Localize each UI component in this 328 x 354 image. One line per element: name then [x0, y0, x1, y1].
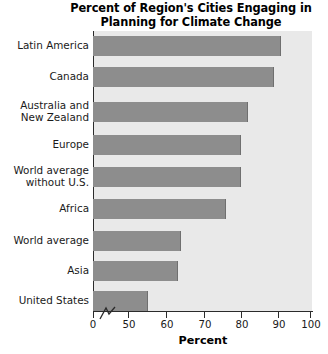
x-tick-label-0: 0	[78, 319, 108, 330]
x-tick-mark-80	[241, 312, 242, 318]
category-label-line: World average	[13, 234, 89, 246]
bar-world-average	[93, 231, 181, 251]
chart-title-line-2: Planning for Climate Change	[62, 16, 320, 30]
x-tick-mark-0	[93, 312, 94, 318]
category-label-united-states: United States	[0, 294, 89, 306]
bar-row	[93, 67, 312, 87]
bar-row	[93, 199, 312, 219]
bar-row	[93, 261, 312, 281]
x-tick-label-90: 90	[264, 319, 294, 330]
bar-asia	[93, 261, 178, 281]
category-label-line: New Zealand	[0, 111, 89, 123]
axis-break-icon	[98, 306, 118, 320]
category-label-asia: Asia	[0, 264, 89, 276]
x-axis-line	[93, 311, 313, 312]
category-label-line: Latin America	[17, 39, 89, 51]
bar-chart: Percent of Region's Cities Engaging in P…	[0, 0, 328, 354]
bar-canada	[93, 67, 274, 87]
x-tick-mark-100	[310, 312, 311, 318]
category-label-latin-america: Latin America	[0, 39, 89, 51]
x-tick-mark-50	[128, 312, 129, 318]
category-label-world-average: World average	[0, 234, 89, 246]
category-label-world-average-without-us: World average without U.S.	[0, 164, 89, 188]
category-label-line: Australia and	[0, 99, 89, 111]
category-label-australia-new-zealand: Australia and New Zealand	[0, 99, 89, 123]
bar-row	[93, 291, 312, 311]
category-label-line: without U.S.	[0, 176, 89, 188]
category-label-canada: Canada	[0, 70, 89, 82]
x-tick-mark-90	[278, 312, 279, 318]
x-tick-label-50: 50	[114, 319, 144, 330]
x-tick-mark-60	[166, 312, 167, 318]
bar-row	[93, 231, 312, 251]
category-label-line: Europe	[52, 138, 89, 150]
bar-row	[93, 135, 312, 155]
category-label-line: United States	[19, 294, 89, 306]
chart-title-line-1: Percent of Region's Cities Engaging in	[62, 2, 320, 16]
bar-row	[93, 167, 312, 187]
category-label-line: Africa	[59, 202, 89, 214]
x-tick-label-100: 100	[296, 319, 326, 330]
bar-latin-america	[93, 36, 281, 56]
x-axis-title: Percent	[93, 334, 313, 347]
x-tick-mark-70	[204, 312, 205, 318]
bar-australia-new-zealand	[93, 102, 248, 122]
category-label-europe: Europe	[0, 138, 89, 150]
bar-europe	[93, 135, 241, 155]
bar-africa	[93, 199, 226, 219]
category-label-line: World average	[0, 164, 89, 176]
x-tick-label-80: 80	[227, 319, 257, 330]
bar-row	[93, 36, 312, 56]
bar-world-average-without-us	[93, 167, 241, 187]
x-tick-label-70: 70	[190, 319, 220, 330]
category-label-line: Asia	[67, 264, 89, 276]
category-label-line: Canada	[49, 70, 89, 82]
category-label-africa: Africa	[0, 202, 89, 214]
bar-row	[93, 102, 312, 122]
chart-title: Percent of Region's Cities Engaging in P…	[62, 2, 320, 29]
x-tick-label-60: 60	[152, 319, 182, 330]
